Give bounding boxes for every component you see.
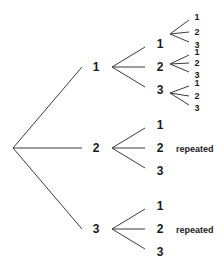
- repeated-note: repeated: [176, 144, 214, 154]
- edge-1-1: [112, 47, 145, 67]
- edge-root-to-3: [13, 148, 82, 229]
- node-1-2-2: 2: [194, 59, 199, 68]
- node-1-1-2: 2: [194, 28, 199, 37]
- node-1-2-1: 1: [194, 48, 199, 57]
- node-3: 3: [93, 223, 100, 235]
- node-3-3: 3: [157, 246, 164, 258]
- edge-1-3: [112, 67, 145, 87]
- node-1-3-1: 1: [194, 79, 199, 88]
- edge-root-to-1: [13, 67, 82, 148]
- node-2-3: 3: [157, 165, 164, 177]
- node-1-3: 3: [157, 84, 164, 96]
- node-1-3-2: 2: [194, 92, 199, 101]
- node-1-1: 1: [157, 38, 164, 50]
- node-1-1-1: 1: [194, 13, 199, 22]
- node-3-1: 1: [157, 200, 164, 212]
- edge-3-1: [112, 209, 145, 229]
- edge-3-3: [112, 229, 145, 249]
- node-2: 2: [93, 142, 100, 154]
- repeated-note: repeated: [176, 225, 214, 235]
- node-1: 1: [93, 61, 100, 73]
- edge-1-1-3: [170, 34, 189, 42]
- node-1-3-3: 3: [194, 104, 199, 113]
- edge-1-3-1: [170, 86, 189, 93]
- node-2-2: 2: [157, 142, 164, 154]
- node-2-1: 1: [157, 119, 164, 131]
- edge-1-2-3: [170, 64, 189, 72]
- edge-2-1: [112, 128, 145, 148]
- node-3-2: 2: [157, 223, 164, 235]
- edge-2-3: [112, 148, 145, 168]
- node-1-2: 2: [157, 61, 164, 73]
